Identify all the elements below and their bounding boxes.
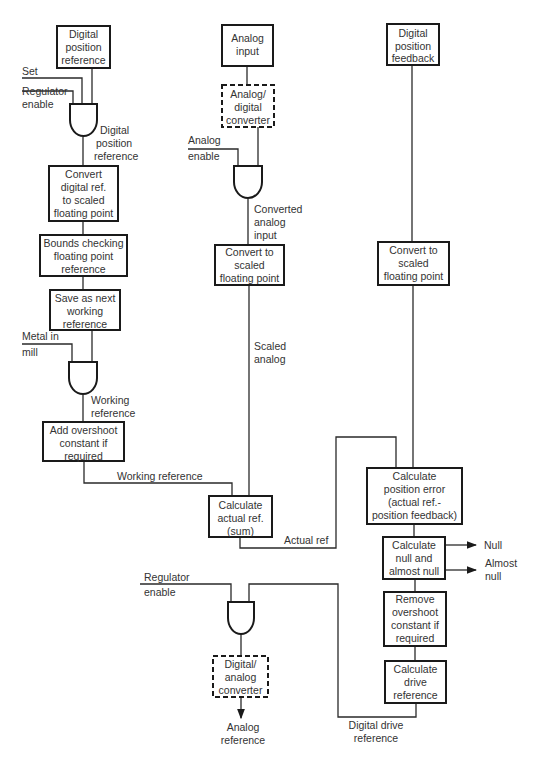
svg-text:floating point: floating point (220, 272, 280, 284)
label-almost-null: Almost (485, 557, 517, 569)
label-working-reference-gate: Working (91, 394, 129, 406)
box-convert-scaled-feedback: Convert to scaled floating point (378, 242, 449, 285)
box-convert-digital-ref: Convert digital ref. to scaled floating … (49, 166, 118, 221)
label-working-reference-gate-2: reference (91, 407, 136, 419)
label-analog-enable-2: enable (188, 150, 220, 162)
svg-text:digital ref.: digital ref. (61, 181, 107, 193)
label-regulator-enable-bottom: Regulator (144, 571, 190, 583)
svg-text:Calculate: Calculate (394, 663, 438, 675)
label-metal-in-mill: Metal in (22, 330, 59, 342)
label-regulator-enable-top: Regulator (22, 85, 68, 97)
svg-text:floating point: floating point (54, 250, 114, 262)
svg-text:scaled: scaled (398, 257, 429, 269)
box-da-converter: Digital/ analog converter (213, 656, 268, 697)
svg-text:reference: reference (61, 54, 106, 66)
box-ad-converter: Analog/ digital converter (222, 85, 274, 127)
svg-text:Calculate: Calculate (392, 539, 436, 551)
svg-text:(sum): (sum) (227, 525, 254, 537)
label-scaled-analog: Scaled (254, 340, 286, 352)
svg-text:position: position (395, 40, 431, 52)
svg-text:working: working (66, 305, 103, 317)
svg-text:analog: analog (225, 671, 257, 683)
label-converted-analog-input: Converted (254, 203, 303, 215)
svg-text:Digital: Digital (69, 28, 98, 40)
svg-text:Calculate: Calculate (219, 499, 263, 511)
svg-text:Add overshoot: Add overshoot (50, 424, 118, 436)
and-gate-regulator (70, 104, 97, 136)
flow-diagram: Digital position reference Convert digit… (0, 0, 534, 759)
svg-text:constant if: constant if (60, 437, 108, 449)
svg-text:required: required (396, 632, 435, 644)
box-remove-overshoot: Remove overshoot constant if required (384, 592, 446, 646)
label-converted-analog-input-3: input (254, 229, 277, 241)
svg-text:overshoot: overshoot (392, 606, 438, 618)
svg-text:Bounds checking: Bounds checking (44, 237, 124, 249)
label-metal-in-mill-2: mill (22, 346, 38, 358)
box-calculate-position-error: Calculate position error (actual ref.- p… (367, 468, 462, 524)
box-calculate-drive-reference: Calculate drive reference (385, 661, 446, 703)
and-gate-metal-in-mill (69, 362, 97, 394)
box-add-overshoot: Add overshoot constant if required (43, 422, 124, 462)
svg-text:converter: converter (226, 114, 270, 126)
label-regulator-enable-top-2: enable (22, 98, 54, 110)
and-gate-drive-output (228, 602, 254, 634)
svg-text:almost null: almost null (389, 565, 439, 577)
label-null: Null (484, 539, 502, 551)
svg-text:reference: reference (63, 318, 108, 330)
label-digital-position-reference-3: reference (94, 150, 139, 162)
label-digital-drive-reference-2: reference (354, 732, 399, 744)
label-digital-drive-reference: Digital drive (349, 719, 404, 731)
label-analog-reference: Analog (227, 721, 260, 733)
label-actual-ref: Actual ref (284, 534, 328, 546)
svg-text:Analog: Analog (231, 32, 264, 44)
and-gate-analog-enable (234, 166, 262, 198)
svg-text:actual ref.: actual ref. (217, 512, 263, 524)
box-bounds-checking: Bounds checking floating point reference (40, 235, 127, 276)
svg-text:Remove: Remove (395, 593, 434, 605)
svg-text:required: required (64, 450, 103, 462)
svg-text:converter: converter (219, 684, 263, 696)
label-regulator-enable-bottom-2: enable (144, 586, 176, 598)
label-digital-position-reference-2: position (96, 137, 132, 149)
svg-text:position feedback): position feedback) (372, 509, 457, 521)
svg-text:digital: digital (234, 101, 261, 113)
label-analog-enable: Analog (188, 134, 221, 146)
label-almost-null-2: null (485, 570, 501, 582)
label-digital-position-reference: Digital (100, 124, 129, 136)
box-digital-position-reference: Digital position reference (57, 26, 110, 68)
svg-text:Digital: Digital (398, 27, 427, 39)
box-save-next-working: Save as next working reference (50, 290, 120, 330)
svg-text:Convert to: Convert to (389, 244, 438, 256)
svg-text:Digital/: Digital/ (224, 658, 256, 670)
box-calculate-null: Calculate null and almost null (383, 537, 445, 579)
svg-text:Save as next: Save as next (55, 292, 116, 304)
svg-text:Analog/: Analog/ (230, 88, 266, 100)
svg-text:Calculate: Calculate (393, 470, 437, 482)
box-calculate-actual-ref: Calculate actual ref. (sum) (209, 496, 272, 537)
svg-text:reference: reference (61, 263, 106, 275)
svg-text:Convert: Convert (65, 168, 102, 180)
svg-text:reference: reference (393, 689, 438, 701)
box-convert-scaled-analog: Convert to scaled floating point (215, 245, 284, 285)
label-analog-reference-2: reference (221, 734, 266, 746)
label-set: Set (22, 65, 38, 77)
label-working-reference-line: Working reference (117, 470, 203, 482)
svg-text:constant if: constant if (391, 619, 439, 631)
svg-text:(actual ref.-: (actual ref.- (388, 496, 442, 508)
svg-text:position: position (65, 41, 101, 53)
box-analog-input: Analog input (222, 25, 273, 66)
svg-text:Convert to: Convert to (225, 246, 274, 258)
svg-text:drive: drive (404, 676, 427, 688)
svg-text:feedback: feedback (392, 52, 435, 64)
svg-text:null and: null and (396, 552, 433, 564)
label-converted-analog-input-2: analog (254, 216, 286, 228)
svg-text:floating point: floating point (384, 270, 444, 282)
svg-text:floating point: floating point (54, 207, 114, 219)
box-digital-position-feedback: Digital position feedback (387, 24, 439, 65)
label-scaled-analog-2: analog (254, 353, 286, 365)
svg-text:scaled: scaled (234, 259, 265, 271)
svg-text:to scaled: to scaled (62, 194, 104, 206)
svg-text:position error: position error (384, 483, 446, 495)
svg-text:input: input (236, 45, 259, 57)
